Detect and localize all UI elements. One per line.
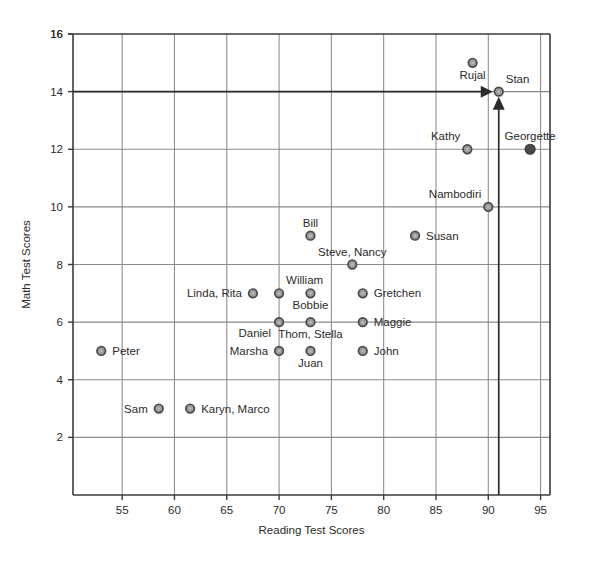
data-point[interactable]: Nambodiri (429, 188, 493, 211)
data-point-marker-center (487, 205, 490, 208)
data-point-label: Rujal (459, 69, 485, 81)
data-point[interactable]: Marsha (230, 345, 284, 357)
data-point-marker-center (361, 321, 364, 324)
data-point[interactable]: Karyn, Marco (186, 403, 270, 415)
data-point[interactable]: Bobbie (293, 289, 329, 311)
data-point-label: Bobbie (293, 299, 329, 311)
data-point-marker-center (414, 234, 417, 237)
y-tick-label: 2 (57, 431, 63, 443)
data-point[interactable]: Maggie (358, 316, 411, 328)
data-point-marker-center (497, 90, 500, 93)
data-point-label: John (374, 345, 399, 357)
x-tick-label: 55 (116, 504, 129, 516)
data-point-label: Maggie (374, 316, 412, 328)
data-point-label: Linda, Rita (187, 287, 243, 299)
y-tick-label: 16 (50, 28, 63, 40)
x-tick-label: 70 (273, 504, 286, 516)
data-point[interactable]: Steve, Nancy (318, 246, 387, 269)
data-point-label: Bill (303, 217, 318, 229)
data-point[interactable]: Daniel (238, 318, 283, 339)
data-point-label: Marsha (230, 345, 269, 357)
y-tick-label: 14 (50, 86, 63, 98)
y-axis-title: Math Test Scores (20, 220, 32, 309)
scatter-plot-figure: 55606570758085909524681012141616Reading … (0, 0, 597, 566)
data-point-label: Thom, Stella (278, 328, 343, 340)
plot-canvas: 55606570758085909524681012141616Reading … (0, 0, 597, 566)
data-point-label: Susan (426, 230, 459, 242)
x-tick-label: 95 (534, 504, 547, 516)
data-point[interactable]: William (275, 274, 323, 297)
data-point-label: Daniel (238, 327, 271, 339)
data-point-marker-center (309, 292, 312, 295)
data-point-marker-center (189, 407, 192, 410)
data-point-marker-center (278, 292, 281, 295)
data-point-label: Georgette (505, 130, 556, 142)
data-point-label: Karyn, Marco (201, 403, 269, 415)
data-point-marker-center (278, 321, 281, 324)
x-axis-title: Reading Test Scores (259, 524, 365, 536)
data-point-marker-center (309, 234, 312, 237)
data-point[interactable]: John (358, 345, 398, 357)
data-point[interactable]: Thom, Stella (278, 318, 343, 340)
y-tick-label: 6 (57, 316, 63, 328)
y-tick-label: 8 (57, 259, 63, 271)
data-point-label: Peter (112, 345, 140, 357)
y-tick-label: 10 (50, 201, 63, 213)
data-point-marker-center (309, 321, 312, 324)
data-point[interactable]: Peter (97, 345, 140, 357)
x-tick-label: 60 (168, 504, 181, 516)
data-point[interactable]: Georgette (505, 130, 556, 154)
y-tick-label: 4 (57, 374, 64, 386)
data-point[interactable]: Linda, Rita (187, 287, 257, 299)
data-point-marker-center (251, 292, 254, 295)
data-point[interactable]: Juan (298, 347, 323, 369)
horizontal-arrow-to-stan-head (481, 86, 493, 98)
data-point[interactable]: Sam (124, 403, 163, 415)
data-point-marker-center (351, 263, 354, 266)
data-point-marker-center (361, 349, 364, 352)
data-point-label: Stan (506, 73, 530, 85)
x-tick-label: 80 (377, 504, 390, 516)
data-point-label: William (286, 274, 323, 286)
vertical-arrow-to-stan-head (493, 97, 505, 110)
x-tick-label: 90 (482, 504, 495, 516)
data-point-label: Kathy (431, 130, 461, 142)
data-point-label: Nambodiri (429, 188, 481, 200)
data-point-label: Juan (298, 357, 323, 369)
data-point-marker-center (466, 148, 469, 151)
data-point-marker-center (309, 349, 312, 352)
data-point-marker-center (157, 407, 160, 410)
data-point-marker-center (278, 349, 281, 352)
x-tick-label: 65 (220, 504, 233, 516)
data-point[interactable]: Bill (303, 217, 318, 240)
data-point[interactable]: Rujal (459, 59, 485, 81)
data-point[interactable]: Gretchen (358, 287, 421, 299)
data-point[interactable]: Susan (411, 230, 459, 242)
data-point-marker-center (471, 61, 474, 64)
x-tick-label: 75 (325, 504, 338, 516)
data-point-label: Steve, Nancy (318, 246, 387, 258)
y-tick-label: 12 (50, 143, 63, 155)
data-point-marker[interactable] (525, 144, 535, 154)
data-point-label: Gretchen (374, 287, 421, 299)
data-point-label: Sam (124, 403, 148, 415)
data-point[interactable]: Stan (494, 73, 529, 96)
data-point-marker-center (361, 292, 364, 295)
x-tick-label: 85 (430, 504, 443, 516)
data-point[interactable]: Kathy (431, 130, 472, 153)
data-point-marker-center (100, 349, 103, 352)
